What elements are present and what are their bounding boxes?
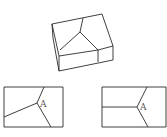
inner-ridge-left	[60, 32, 80, 50]
box-outline	[52, 14, 113, 71]
inner-ridge-top	[80, 18, 83, 32]
label-a-right: A	[139, 102, 147, 112]
inner-ridge-right	[80, 32, 98, 50]
isometric-box	[52, 14, 113, 71]
left-vertical-edge	[52, 24, 59, 71]
left-view: A	[4, 87, 63, 127]
right-view: A	[102, 87, 166, 127]
left-view-frame	[4, 87, 63, 127]
front-top-edge	[59, 46, 113, 56]
left-view-line-1	[4, 103, 37, 117]
diagram-canvas: A A	[0, 0, 167, 137]
label-a-left: A	[39, 99, 47, 109]
